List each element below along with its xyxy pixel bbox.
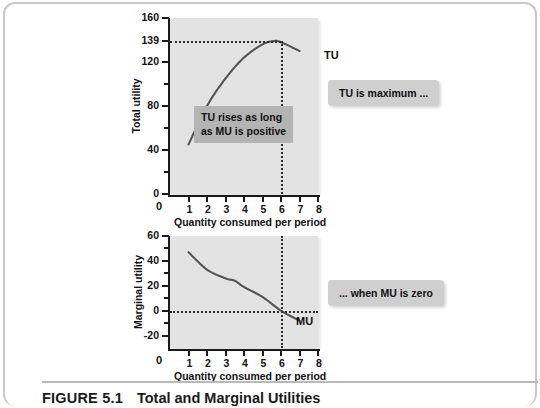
y-tick-label-160: 160 [141, 12, 159, 23]
x-tick-8 [317, 196, 319, 202]
y-tick-60: 60 [162, 235, 169, 237]
y-tick-120: 120 [162, 61, 169, 63]
x-tick-label-6: 6 [275, 204, 289, 215]
y-tick-40: 40 [162, 260, 169, 262]
x-tick-label-8: 8 [312, 204, 326, 215]
series-label-tu: TU [324, 50, 339, 61]
callout-mu-zero: ... when MU is zero [328, 280, 444, 306]
y-axis-total [168, 18, 170, 196]
x-tick-1 [188, 196, 190, 202]
y-tick-minor [164, 272, 169, 274]
y-tick-minor [164, 247, 169, 249]
x-tick-label-6: 6 [275, 358, 289, 369]
y-axis-title-total: Total utility [130, 71, 142, 141]
x-tick-label-7: 7 [294, 358, 308, 369]
x-tick-label-7: 7 [294, 204, 308, 215]
y-axis-title-marginal: Marginal utility [132, 252, 144, 332]
x-tick-label-2: 2 [201, 358, 215, 369]
x-tick-2 [206, 196, 208, 202]
y-tick-label--20: -20 [144, 330, 159, 341]
marginal-utility-curve [170, 236, 318, 348]
note-line-1: TU rises as long [201, 110, 286, 124]
x-tick-label-2: 2 [201, 204, 215, 215]
origin-label-marginal: 0 [156, 355, 162, 366]
x-tick-3 [225, 196, 227, 202]
figure-caption: FIGURE 5.1Total and Marginal Utilities [42, 390, 320, 406]
x-tick-8 [317, 350, 319, 356]
y-tick-0: 0 [162, 310, 169, 312]
x-axis-title-total: Quantity consumed per period [174, 216, 326, 228]
y-tick--20: -20 [162, 335, 169, 337]
y-tick-label-120: 120 [141, 56, 159, 67]
y-tick-160: 160 [162, 17, 169, 19]
x-tick-4 [243, 350, 245, 356]
x-tick-6 [280, 196, 282, 202]
y-tick-label-0: 0 [153, 188, 159, 199]
y-tick-label-80: 80 [147, 100, 159, 111]
figure-title: Total and Marginal Utilities [137, 390, 320, 406]
x-tick-label-5: 5 [257, 358, 271, 369]
x-tick-3 [225, 350, 227, 356]
y-tick-label-139: 139 [141, 35, 159, 46]
origin-label-total: 0 [156, 201, 162, 212]
plot-area-marginal-utility [170, 236, 318, 348]
y-tick-80: 80 [162, 105, 169, 107]
x-tick-5 [262, 350, 264, 356]
y-tick-139: 139 [162, 40, 169, 42]
note-tu-rises: TU rises as long as MU is positive [194, 106, 293, 143]
x-tick-7 [299, 196, 301, 202]
note-line-2: as MU is positive [201, 124, 286, 138]
chart-marginal-utility: -200204060 12345678 0 Quantity consumed … [118, 228, 338, 376]
x-tick-label-1: 1 [183, 358, 197, 369]
y-tick-label-0: 0 [153, 305, 159, 316]
y-tick-minor [164, 297, 169, 299]
y-tick-minor [164, 322, 169, 324]
chart-total-utility: 04080120139160 12345678 0 Quantity consu… [118, 8, 338, 220]
y-tick-label-40: 40 [147, 144, 159, 155]
y-tick-20: 20 [162, 285, 169, 287]
y-axis-marginal [168, 236, 170, 350]
y-tick-0: 0 [162, 193, 169, 195]
x-tick-label-3: 3 [220, 358, 234, 369]
x-tick-6 [280, 350, 282, 356]
x-tick-label-8: 8 [312, 358, 326, 369]
x-tick-5 [262, 196, 264, 202]
y-tick-label-20: 20 [147, 280, 159, 291]
y-tick-40: 40 [162, 149, 169, 151]
figure-number: FIGURE 5.1 [42, 390, 123, 406]
x-tick-1 [188, 350, 190, 356]
x-tick-label-4: 4 [238, 204, 252, 215]
x-tick-label-1: 1 [183, 204, 197, 215]
series-label-mu: MU [296, 316, 313, 327]
x-tick-label-3: 3 [220, 204, 234, 215]
x-tick-7 [299, 350, 301, 356]
caption-divider [42, 381, 538, 383]
y-tick-minor [164, 127, 169, 129]
y-tick-label-40: 40 [147, 255, 159, 266]
y-tick-label-60: 60 [147, 230, 159, 241]
callout-tu-maximum: TU is maximum ... [328, 80, 439, 106]
x-tick-4 [243, 196, 245, 202]
x-tick-2 [206, 350, 208, 356]
y-tick-minor [164, 83, 169, 85]
y-tick-minor [164, 171, 169, 173]
x-tick-label-4: 4 [238, 358, 252, 369]
x-tick-label-5: 5 [257, 204, 271, 215]
